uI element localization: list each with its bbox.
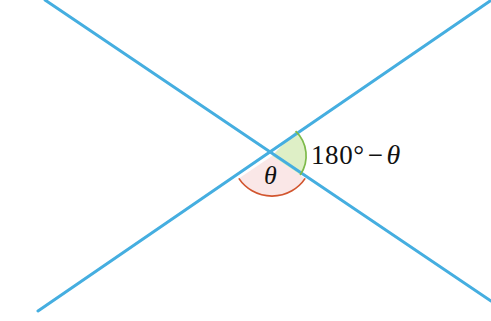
figure-canvas bbox=[0, 0, 491, 321]
theta-angle-label: θ bbox=[264, 163, 277, 189]
supplement-angle-label: 180°−θ bbox=[311, 141, 401, 169]
supplement-theta-symbol: θ bbox=[387, 139, 401, 170]
supplement-number: 180 bbox=[311, 140, 353, 170]
line-ascending bbox=[38, 1, 490, 311]
minus-sign: − bbox=[365, 140, 387, 170]
geometry-figure: 180°−θ θ bbox=[0, 0, 491, 321]
degree-sign: ° bbox=[353, 140, 364, 170]
